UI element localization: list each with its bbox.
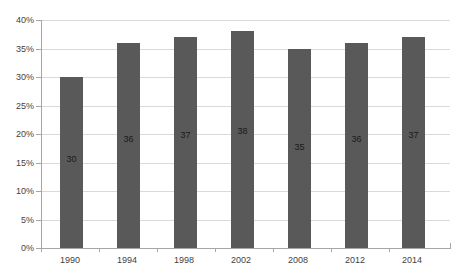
bar-2014 [402,37,425,248]
bar-2012 [345,43,368,248]
x-tick-6 [389,248,390,252]
bar-value-2002: 38 [231,126,254,136]
x-tick-0 [41,248,42,252]
x-tick-1 [99,248,100,252]
x-tick-3 [215,248,216,252]
x-axis-end-tick [450,243,451,249]
y-label-5: 5% [0,215,34,225]
y-label-15: 15% [0,158,34,168]
y-label-30: 30% [0,72,34,82]
y-label-0: 0% [0,243,34,253]
y-tick-10 [36,191,41,192]
gridline-40 [41,20,450,21]
x-label-2012: 2012 [327,255,383,266]
y-axis-line [41,20,42,249]
x-tick-5 [331,248,332,252]
y-tick-30 [36,77,41,78]
x-label-2014: 2014 [384,255,440,266]
y-label-35: 35% [0,44,34,54]
x-label-2008: 2008 [270,255,326,266]
y-label-25: 25% [0,101,34,111]
x-label-2002: 2002 [213,255,269,266]
plot-area: 30 36 37 38 35 36 37 [41,20,450,248]
bar-value-2012: 36 [345,134,368,144]
x-label-1998: 1998 [156,255,212,266]
bar-value-1994: 36 [117,134,140,144]
y-tick-25 [36,106,41,107]
y-axis-labels: 40% 35% 30% 25% 20% 15% 10% 5% 0% [0,0,34,280]
y-tick-20 [36,134,41,135]
y-label-10: 10% [0,186,34,196]
bar-value-1990: 30 [60,154,83,164]
bar-chart: 30 36 37 38 35 36 37 40% 35% 30% 25% 20%… [0,0,462,280]
y-tick-15 [36,163,41,164]
y-tick-35 [36,49,41,50]
y-label-40: 40% [0,15,34,25]
y-tick-5 [36,220,41,221]
bar-value-1998: 37 [174,130,197,140]
bar-1994 [117,43,140,248]
bar-2002 [231,31,254,248]
x-tick-4 [273,248,274,252]
bar-value-2008: 35 [288,142,311,152]
x-tick-2 [157,248,158,252]
x-label-1994: 1994 [99,255,155,266]
x-label-1990: 1990 [42,255,98,266]
y-tick-40 [36,20,41,21]
bar-1998 [174,37,197,248]
bar-value-2014: 37 [402,130,425,140]
y-label-20: 20% [0,129,34,139]
